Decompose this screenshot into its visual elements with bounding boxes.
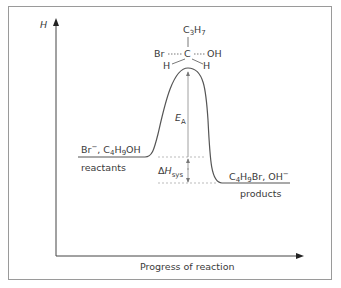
enthalpy-change-label: ΔHsys bbox=[158, 165, 183, 179]
ts-bond-bottom-right bbox=[192, 59, 203, 64]
products-species: C4H9Br, OH− bbox=[229, 170, 289, 184]
activation-energy-label: EA bbox=[175, 112, 186, 126]
reactants-label: reactants bbox=[81, 162, 126, 173]
ts-bond-bottom-left bbox=[172, 59, 185, 64]
ts-bottom-left-h: H bbox=[163, 60, 170, 71]
x-axis-label: Progress of reaction bbox=[140, 261, 235, 272]
y-axis-label: H bbox=[40, 19, 47, 30]
ts-top-group: C3H7 bbox=[183, 24, 206, 37]
ts-center-carbon: C bbox=[184, 48, 191, 59]
reactants-species: Br−, C4H9OH bbox=[81, 143, 141, 157]
ts-bottom-right-h: H bbox=[203, 60, 210, 71]
products-label: products bbox=[240, 188, 282, 199]
ts-right-group: OH bbox=[207, 48, 222, 59]
ts-left-group: Br bbox=[154, 48, 165, 59]
transition-state-structure: C3H7 C Br OH H H bbox=[154, 24, 222, 71]
diagram-frame bbox=[9, 7, 332, 280]
energy-profile-diagram: H Progress of reaction EA ΔHsys Br−, C4H… bbox=[0, 0, 341, 288]
